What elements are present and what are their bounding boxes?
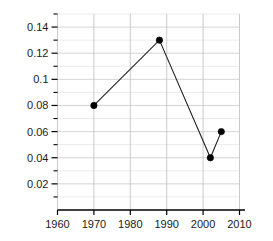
data-point-marker xyxy=(91,102,97,108)
x-axis-tick-label: 2000 xyxy=(191,218,215,230)
y-axis-tick-label: 0.12 xyxy=(27,47,48,59)
data-point-marker xyxy=(156,37,162,43)
x-axis-tick-label: 1980 xyxy=(118,218,142,230)
y-axis-tick-label: 0.04 xyxy=(27,152,48,164)
chart-canvas: 0.020.040.060.080.10.120.14 196019701980… xyxy=(0,0,273,241)
y-axis-tick-label: 0.1 xyxy=(33,73,48,85)
x-axis-tick-label: 1970 xyxy=(82,218,106,230)
y-axis-tick-label: 0.02 xyxy=(27,178,48,190)
x-axis-tick-label: 2010 xyxy=(227,218,251,230)
plot-area xyxy=(58,14,240,210)
y-axis-tick-label: 0.14 xyxy=(27,21,48,33)
y-axis-tick-label: 0.06 xyxy=(27,126,48,138)
x-axis-tick-label: 1990 xyxy=(154,218,178,230)
x-axis-tick-label: 1960 xyxy=(45,218,69,230)
y-axis-tick-label: 0.08 xyxy=(27,99,48,111)
data-point-marker xyxy=(218,128,224,134)
data-point-marker xyxy=(207,155,213,161)
line-chart: 0.020.040.060.080.10.120.14 196019701980… xyxy=(0,0,273,241)
